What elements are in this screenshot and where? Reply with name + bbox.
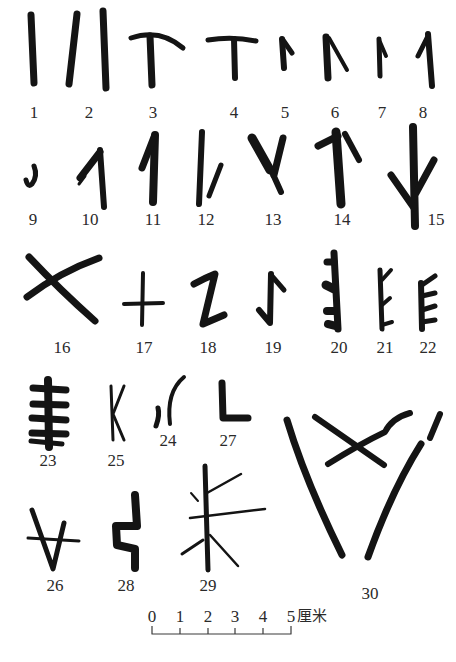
sign-7-glyph <box>379 39 386 76</box>
sign-number-label: 23 <box>40 452 57 469</box>
scale-bar-line <box>152 626 291 634</box>
sign-29-glyph <box>182 466 265 570</box>
sign-6-glyph <box>326 37 347 78</box>
sign-number-label: 10 <box>82 211 99 228</box>
sign-number-label: 6 <box>331 104 340 121</box>
scale-tick-0: 0 <box>148 608 157 625</box>
sign-13-glyph <box>252 138 283 192</box>
sign-number-label: 13 <box>265 211 282 228</box>
sign-number-label: 21 <box>377 339 394 356</box>
sign-22-glyph <box>421 276 435 329</box>
sign-number-label: 28 <box>118 577 135 594</box>
sign-10-glyph <box>79 150 104 207</box>
sign-number-label: 24 <box>160 432 177 449</box>
scale-unit-label: 厘米 <box>297 609 327 624</box>
sign-9-glyph <box>26 166 36 185</box>
scale-tick-2: 2 <box>204 608 213 625</box>
sign-3-glyph <box>131 35 183 85</box>
sign-23-glyph <box>31 380 66 447</box>
sign-number-label: 12 <box>198 211 215 228</box>
sign-26-glyph <box>28 510 79 569</box>
sign-number-label: 29 <box>200 577 217 594</box>
sign-19-glyph <box>259 274 284 323</box>
sign-number-label: 18 <box>200 339 217 356</box>
sign-27-glyph <box>222 383 248 418</box>
sign-21-glyph <box>380 270 392 329</box>
scale-tick-3: 3 <box>231 608 240 625</box>
sign-2-glyph <box>69 11 106 88</box>
sign-number-label: 22 <box>420 339 437 356</box>
sign-number-label: 4 <box>230 104 239 121</box>
sign-12-glyph <box>199 132 221 204</box>
sign-1-glyph <box>31 15 34 83</box>
scale-tick-1: 1 <box>176 608 185 625</box>
sign-number-label: 30 <box>362 585 379 602</box>
sign-number-label: 5 <box>281 104 290 121</box>
scale-tick-4: 4 <box>259 608 268 625</box>
sign-number-label: 14 <box>334 211 351 228</box>
sign-17-glyph <box>124 273 163 325</box>
sign-30-glyph <box>287 413 440 557</box>
sign-number-label: 7 <box>378 104 387 121</box>
sign-number-label: 26 <box>47 577 64 594</box>
sign-number-label: 15 <box>428 211 445 228</box>
sign-28-glyph <box>116 495 137 568</box>
sign-number-label: 2 <box>85 104 94 121</box>
sign-11-glyph <box>142 135 155 202</box>
sign-number-label: 17 <box>136 339 153 356</box>
sign-number-label: 11 <box>145 211 161 228</box>
sign-number-label: 25 <box>108 452 125 469</box>
sign-number-label: 1 <box>30 104 39 121</box>
sign-number-label: 20 <box>331 339 348 356</box>
sign-14-glyph <box>318 132 359 204</box>
sign-number-label: 9 <box>29 211 38 228</box>
sign-25-glyph <box>111 386 124 440</box>
sign-16-glyph <box>27 257 99 321</box>
sign-number-label: 16 <box>54 339 71 356</box>
sign-24-glyph <box>156 377 184 426</box>
sign-number-label: 19 <box>265 339 282 356</box>
scale-tick-5: 5 <box>287 608 296 625</box>
sign-8-glyph <box>418 34 432 86</box>
sign-4-glyph <box>208 38 256 78</box>
incised-signs-figure: 1234567891011121314151617181920212223242… <box>0 0 456 662</box>
sign-number-label: 8 <box>419 104 428 121</box>
sign-20-glyph <box>326 253 338 329</box>
sign-5-glyph <box>282 39 292 68</box>
sign-number-label: 3 <box>149 104 158 121</box>
sign-18-glyph <box>194 274 224 324</box>
sign-glyphs <box>0 0 456 662</box>
sign-number-label: 27 <box>220 432 237 449</box>
